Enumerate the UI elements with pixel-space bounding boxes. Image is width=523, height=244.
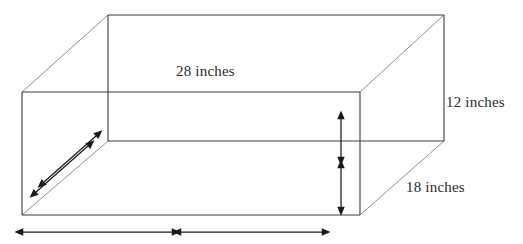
depth-dimension-arrows [36,136,96,192]
edge-top-right-diagonal [360,15,444,92]
box-diagram-figure: 28 inches 12 inches 18 inches [0,0,523,244]
depth-arrow-lower [36,146,88,192]
box-back-face [108,15,444,141]
edge-top-left-diagonal [22,15,108,92]
box-diagram-svg [0,0,523,244]
box-receding-edges [22,15,444,215]
dimension-label-depth: 18 inches [406,180,465,195]
dimension-label-height: 12 inches [446,95,505,110]
edge-bottom-left-diagonal [22,141,108,215]
box-front-face [22,92,360,215]
edge-bottom-right-diagonal [360,141,444,215]
depth-arrow-upper [44,136,96,182]
dimension-label-length: 28 inches [176,64,235,79]
